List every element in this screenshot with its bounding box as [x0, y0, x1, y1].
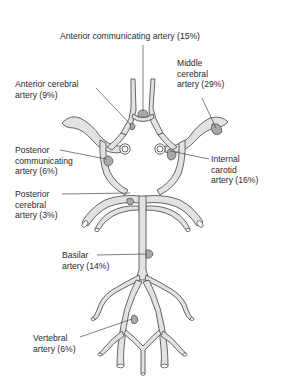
- anterior-cerebral-artery-right: [149, 79, 163, 135]
- label-basilar-artery: Basilar artery (14%): [62, 250, 109, 271]
- label-internal-carotid-artery: Internal carotid artery (16%): [211, 154, 258, 186]
- pica-cut-end-right: [183, 353, 187, 356]
- label-posterior-cerebral-artery: Posterior cerebral artery (3%): [15, 189, 58, 221]
- leader-pca: [62, 193, 130, 194]
- vertebral-cut-end-left: [117, 364, 124, 368]
- label-posterior-communicating-artery: Posterior communicating artery (6%): [15, 145, 73, 177]
- internal-carotid-lumen-right: [157, 146, 163, 152]
- vertebral-artery-right: [143, 280, 168, 366]
- label-middle-cerebral-artery: Middle cerebral artery (29%): [177, 58, 224, 90]
- label-anterior-cerebral-artery: Anterior cerebral artery (9%): [15, 79, 79, 100]
- sca-cut-end-left: [95, 228, 99, 231]
- aneurysm-internal-carotid: [167, 149, 176, 160]
- aneurysm-basilar: [146, 250, 153, 258]
- circle-of-willis-diagram: Anterior communicating artery (15%) Midd…: [0, 0, 283, 381]
- label-vertebral-artery: Vertebral artery (6%): [33, 333, 76, 354]
- internal-carotid-lumen-left: [122, 146, 128, 152]
- aneurysm-posterior-cerebral: [127, 198, 134, 205]
- anterior-spinal-cut-end: [141, 373, 145, 376]
- aica-cut-end-right: [190, 318, 194, 321]
- aica-cut-end-left: [91, 318, 95, 321]
- vertebral-cut-end-right: [161, 364, 168, 368]
- sca-cut-end-right: [186, 228, 190, 231]
- leader-aca: [96, 88, 131, 125]
- pica-cut-end-left: [98, 353, 102, 356]
- aneurysm-anterior-communicating: [138, 110, 148, 117]
- anterior-spinal-artery: [124, 330, 161, 374]
- label-anterior-communicating-artery: Anterior communicating artery (15%): [60, 31, 200, 42]
- aneurysm-posterior-communicating: [104, 156, 113, 166]
